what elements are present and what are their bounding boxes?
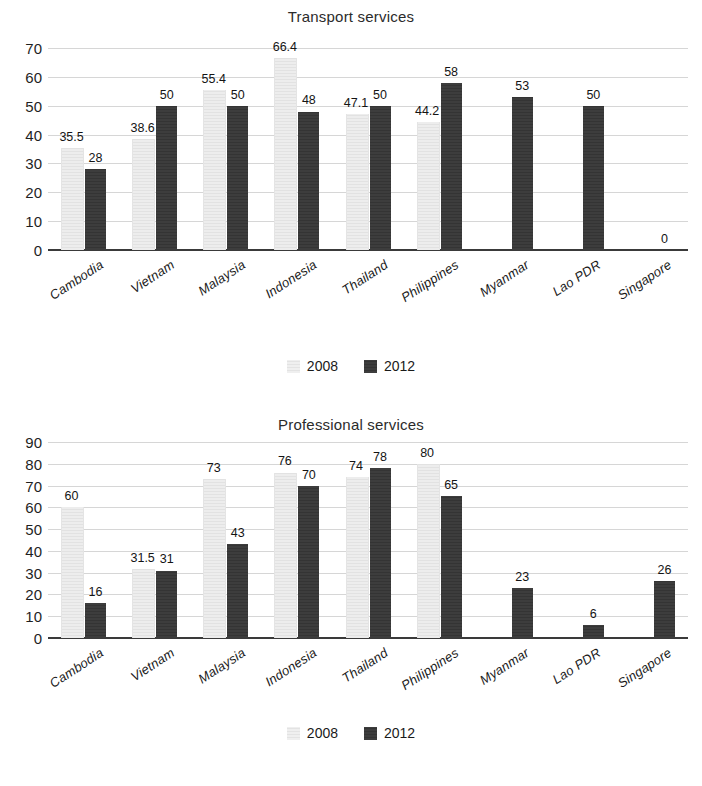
x-axis-label-singapore: Singapore <box>615 257 674 303</box>
bar-value-label: 73 <box>190 462 238 475</box>
bar-2012-vietnam <box>156 106 177 250</box>
x-axis-label-vietnam: Vietnam <box>128 645 177 684</box>
bar-value-label: 76 <box>261 455 309 468</box>
legend-professional: 2008 2012 <box>0 725 702 741</box>
gridline <box>48 77 688 78</box>
legend-swatch-2008-icon <box>287 360 300 373</box>
y-axis-tick-label: 50 <box>8 98 42 113</box>
x-axis-label-philippines: Philippines <box>399 257 462 305</box>
x-axis-label-vietnam: Vietnam <box>128 257 177 296</box>
bar-2012-lao-pdr <box>583 625 604 638</box>
plot-canvas-professional: 601631.531734376707478806523626 <box>48 442 688 638</box>
plot-area-transport: 35.52838.65055.45066.44847.15044.2585350… <box>0 0 702 340</box>
legend-item-2008: 2008 <box>287 358 338 374</box>
bar-2012-thailand <box>370 468 391 638</box>
y-axis-tick-label: 70 <box>8 41 42 56</box>
bar-value-label: 50 <box>356 89 404 102</box>
bar-2008-malaysia <box>203 479 226 638</box>
bar-2008-indonesia <box>274 58 297 250</box>
gridline <box>48 442 688 443</box>
plot-area-professional: 601631.531734376707478806523626 01020304… <box>0 410 702 710</box>
y-axis-tick-label: 10 <box>8 609 42 624</box>
x-axis-label-lao-pdr: Lao PDR <box>550 257 604 299</box>
bar-value-label: 6 <box>569 608 617 621</box>
y-axis-tick-label: 80 <box>8 456 42 471</box>
legend-label-2012: 2012 <box>384 358 415 374</box>
y-axis-tick-label: 40 <box>8 127 42 142</box>
y-axis-tick-label: 60 <box>8 500 42 515</box>
y-axis-tick-label: 30 <box>8 156 42 171</box>
x-axis-label-singapore: Singapore <box>615 645 674 691</box>
legend-label-2008: 2008 <box>307 725 338 741</box>
plot-canvas-transport: 35.52838.65055.45066.44847.15044.2585350… <box>48 48 688 250</box>
y-axis-tick-label: 10 <box>8 214 42 229</box>
x-axis-label-indonesia: Indonesia <box>262 257 319 301</box>
bar-2012-philippines <box>441 83 462 250</box>
bar-value-label: 55.4 <box>190 73 238 86</box>
chart-transport-services: Transport services 35.52838.65055.45066.… <box>0 0 702 400</box>
bar-value-label: 0 <box>640 233 688 246</box>
bar-2012-cambodia <box>85 603 106 638</box>
bar-2008-philippines <box>417 122 440 250</box>
bar-value-label: 53 <box>498 80 546 93</box>
bar-2008-vietnam <box>132 139 155 250</box>
legend-transport: 2008 2012 <box>0 358 702 374</box>
chart-professional-services: Professional services 601631.53173437670… <box>0 410 702 786</box>
bar-value-label: 80 <box>403 447 451 460</box>
x-axis-label-myanmar: Myanmar <box>477 257 532 300</box>
bar-value-label: 58 <box>427 66 475 79</box>
legend-swatch-2012-icon <box>364 727 377 740</box>
x-axis-label-myanmar: Myanmar <box>477 645 532 688</box>
bar-value-label: 23 <box>498 571 546 584</box>
y-axis-tick-label: 0 <box>8 631 42 646</box>
y-axis-tick-label: 70 <box>8 478 42 493</box>
bar-value-label: 50 <box>569 89 617 102</box>
legend-label-2008: 2008 <box>307 358 338 374</box>
bar-2012-lao-pdr <box>583 106 604 250</box>
bar-2008-thailand <box>346 477 369 638</box>
bar-2008-malaysia <box>203 90 226 250</box>
x-axis-label-malaysia: Malaysia <box>195 257 248 298</box>
x-axis-label-cambodia: Cambodia <box>46 645 105 691</box>
bar-2012-indonesia <box>298 486 319 638</box>
x-axis-label-cambodia: Cambodia <box>46 257 105 303</box>
bar-value-label: 70 <box>285 469 333 482</box>
bar-2012-myanmar <box>512 588 533 638</box>
bar-value-label: 48 <box>285 94 333 107</box>
y-axis-tick-label: 40 <box>8 543 42 558</box>
y-axis-tick-label: 30 <box>8 565 42 580</box>
bar-2008-indonesia <box>274 473 297 639</box>
legend-item-2012: 2012 <box>364 358 415 374</box>
bar-2012-singapore <box>654 581 675 638</box>
bar-value-label: 26 <box>640 564 688 577</box>
x-axis-label-lao-pdr: Lao PDR <box>550 645 604 687</box>
bar-2012-malaysia <box>227 544 248 638</box>
bar-2012-malaysia <box>227 106 248 250</box>
bar-value-label: 50 <box>214 89 262 102</box>
x-axis-label-thailand: Thailand <box>339 257 390 298</box>
y-axis-tick-label: 90 <box>8 435 42 450</box>
bar-value-label: 31 <box>143 553 191 566</box>
x-axis-label-philippines: Philippines <box>399 645 462 693</box>
bar-2012-cambodia <box>85 169 106 250</box>
legend-item-2008: 2008 <box>287 725 338 741</box>
legend-swatch-2012-icon <box>364 360 377 373</box>
bar-value-label: 78 <box>356 451 404 464</box>
bar-2012-indonesia <box>298 112 319 251</box>
bar-value-label: 65 <box>427 479 475 492</box>
y-axis-tick-label: 20 <box>8 587 42 602</box>
gridline <box>48 48 688 49</box>
bar-value-label: 35.5 <box>48 131 96 144</box>
legend-item-2012: 2012 <box>364 725 415 741</box>
y-axis-tick-label: 50 <box>8 522 42 537</box>
bar-value-label: 16 <box>72 586 120 599</box>
bar-2012-vietnam <box>156 571 177 639</box>
bar-value-label: 66.4 <box>261 41 309 54</box>
x-axis-label-thailand: Thailand <box>339 645 390 686</box>
bar-2008-thailand <box>346 114 369 250</box>
bar-2008-vietnam <box>132 569 155 638</box>
bar-2008-cambodia <box>61 507 84 638</box>
y-axis-tick-label: 20 <box>8 185 42 200</box>
x-axis-label-indonesia: Indonesia <box>262 645 319 689</box>
bar-value-label: 50 <box>143 89 191 102</box>
